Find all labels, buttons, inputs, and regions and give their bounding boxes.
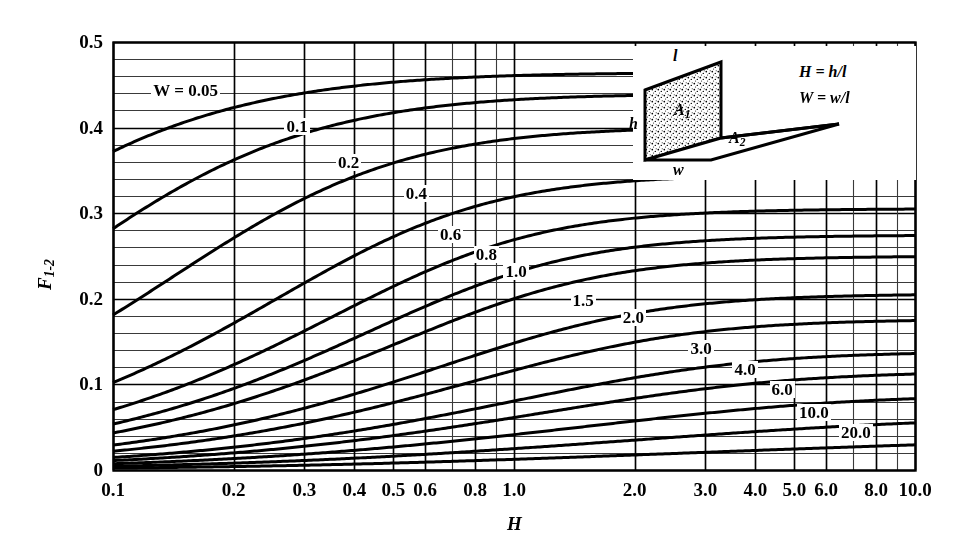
y-tick-label: 0.3 xyxy=(55,203,103,222)
curve-label: 3.0 xyxy=(688,340,713,357)
curve-label: W = 0.05 xyxy=(151,82,220,99)
y-tick-label: 0 xyxy=(55,460,103,479)
x-tick-label: 0.1 xyxy=(83,480,143,499)
inset-diagram: l h w A1 A2 H = h/l W = w/l xyxy=(633,46,916,180)
inset-label-a2: A2 xyxy=(729,130,745,148)
curve-label: 20.0 xyxy=(839,424,873,441)
curve-label: 4.0 xyxy=(732,361,757,378)
curve-label: 10.0 xyxy=(797,404,831,421)
y-tick-label: 0.1 xyxy=(55,374,103,393)
inset-formula-h: H = h/l xyxy=(799,64,846,80)
y-axis-title-sub: 1-2 xyxy=(42,259,57,277)
curve-label: 0.1 xyxy=(284,118,309,135)
inset-formula-w: W = w/l xyxy=(799,90,850,106)
curve-label: 2.0 xyxy=(621,309,646,326)
curve-label: 0.8 xyxy=(474,246,499,263)
x-tick-label: 2.0 xyxy=(605,480,665,499)
x-tick-label: 0.2 xyxy=(204,480,264,499)
curve-label: 6.0 xyxy=(770,381,795,398)
x-tick-label: 1.0 xyxy=(484,480,544,499)
x-tick-label: 10.0 xyxy=(885,480,945,499)
inset-label-w: w xyxy=(673,162,684,178)
curve-label: 1.0 xyxy=(503,263,528,280)
inset-label-h: h xyxy=(629,116,638,132)
y-axis-title: F1-2 xyxy=(34,259,58,290)
x-axis-title: H xyxy=(507,514,522,533)
y-tick-label: 0.5 xyxy=(55,32,103,51)
curve-label: 0.4 xyxy=(404,185,429,202)
curve-label: 0.2 xyxy=(336,154,361,171)
y-axis-title-main: F xyxy=(34,277,55,290)
curve-label: 0.6 xyxy=(438,226,463,243)
y-tick-label: 0.4 xyxy=(55,118,103,137)
inset-label-l: l xyxy=(673,48,677,64)
view-factor-chart: F1-2 H 00.10.20.30.40.5 0.10.20.30.40.50… xyxy=(0,0,960,559)
inset-label-a1: A1 xyxy=(674,102,690,120)
curve-label: 1.5 xyxy=(571,292,596,309)
y-tick-label: 0.2 xyxy=(55,289,103,308)
